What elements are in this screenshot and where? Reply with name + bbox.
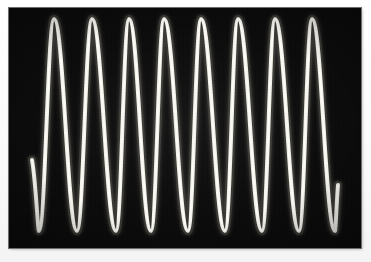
- oscilloscope-screen: [9, 8, 361, 248]
- waveform-trace-svg: [9, 8, 361, 248]
- screenshot-root: Oscilloscope sine wave trace sine 8: [0, 0, 371, 262]
